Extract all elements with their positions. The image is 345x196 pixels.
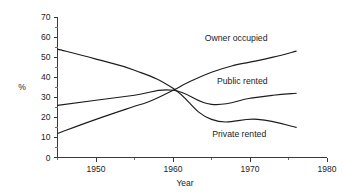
y-tick-label: 0 [46, 153, 51, 163]
chart-svg: 010203040506070 1950196019701980 % Year … [0, 0, 345, 196]
y-tick-label: 50 [41, 52, 51, 62]
series-line-public-rented [58, 90, 297, 106]
y-axis-title: % [18, 82, 26, 92]
series-line-owner-occupied [58, 51, 297, 133]
x-axis-title: Year [176, 178, 193, 188]
y-axis-group: 010203040506070 [41, 12, 57, 163]
y-tick-label: 70 [41, 12, 51, 22]
y-tick-label: 40 [41, 72, 51, 82]
series-label-private-rented: Private rented [212, 129, 266, 139]
y-tick-label: 20 [41, 112, 51, 122]
x-tick-label: 1960 [164, 164, 183, 174]
x-axis-tick-labels: 1950196019701980 [87, 164, 337, 174]
y-tick-label: 30 [41, 92, 51, 102]
x-tick-label: 1970 [241, 164, 260, 174]
y-axis-tick-labels: 010203040506070 [41, 12, 51, 163]
y-tick-label: 10 [41, 132, 51, 142]
series-annotations: Owner occupiedPublic rentedPrivate rente… [205, 33, 268, 139]
line-chart: 010203040506070 1950196019701980 % Year … [0, 0, 345, 196]
series-label-owner-occupied: Owner occupied [205, 33, 268, 43]
y-tick-label: 60 [41, 32, 51, 42]
x-tick-label: 1950 [87, 164, 106, 174]
x-axis-group: 1950196019701980 [58, 158, 337, 174]
series-label-public-rented: Public rented [217, 76, 268, 86]
series-lines [58, 49, 297, 133]
x-tick-label: 1980 [318, 164, 337, 174]
